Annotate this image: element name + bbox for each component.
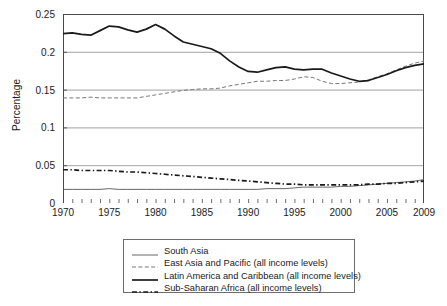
series-line-2 bbox=[63, 25, 424, 82]
x-tick-label: 1970 bbox=[52, 207, 74, 218]
x-tick-label: 2009 bbox=[413, 207, 435, 218]
series-line-3 bbox=[63, 170, 424, 185]
chart-legend: South AsiaEast Asia and Pacific (all inc… bbox=[123, 239, 355, 293]
y-tick-label: 0.25 bbox=[36, 9, 55, 20]
legend-item-0[interactable]: South Asia bbox=[132, 245, 354, 257]
legend-item-1[interactable]: East Asia and Pacific (all income levels… bbox=[132, 258, 354, 270]
y-tick-label: 0.05 bbox=[36, 160, 55, 171]
y-axis-tick-labels: 00.050.10.150.20.25 bbox=[0, 14, 59, 203]
plot-area bbox=[63, 14, 424, 203]
legend-line-sample bbox=[132, 258, 158, 268]
x-tick-label: 2000 bbox=[330, 207, 352, 218]
legend-label: Latin America and Caribbean (all income … bbox=[164, 271, 361, 281]
y-tick-label: 0.15 bbox=[36, 84, 55, 95]
y-tick-label: 0.2 bbox=[41, 46, 55, 57]
legend-line-sample bbox=[132, 246, 158, 256]
x-tick-label: 2005 bbox=[376, 207, 398, 218]
legend-item-3[interactable]: Sub-Saharan Africa (all income levels) bbox=[132, 283, 354, 295]
legend-label: East Asia and Pacific (all income levels… bbox=[164, 258, 328, 268]
legend-line-sample bbox=[132, 271, 158, 281]
x-tick-label: 1985 bbox=[191, 207, 213, 218]
legend-line-sample bbox=[132, 283, 158, 293]
x-tick-label: 1980 bbox=[144, 207, 166, 218]
x-tick-label: 1990 bbox=[237, 207, 259, 218]
x-tick-label: 1975 bbox=[98, 207, 120, 218]
x-tick-label: 1995 bbox=[283, 207, 305, 218]
chart-figure: Percentage 00.050.10.150.20.25 197019751… bbox=[0, 0, 447, 306]
legend-label: Sub-Saharan Africa (all income levels) bbox=[164, 283, 322, 293]
legend-item-2[interactable]: Latin America and Caribbean (all income … bbox=[132, 270, 354, 282]
legend-label: South Asia bbox=[164, 246, 208, 256]
y-tick-label: 0.1 bbox=[41, 122, 55, 133]
x-axis-tick-labels: 197019751980198519901995200020052009 bbox=[0, 207, 447, 223]
plot-svg bbox=[63, 14, 424, 203]
